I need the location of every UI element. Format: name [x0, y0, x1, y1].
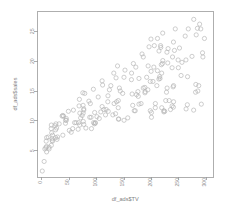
- data-point: [171, 40, 175, 44]
- data-point: [66, 109, 70, 113]
- data-point: [126, 116, 130, 120]
- data-point: [157, 49, 161, 53]
- data-point: [161, 31, 165, 35]
- data-point: [115, 64, 119, 68]
- data-point: [202, 36, 206, 40]
- data-point: [177, 46, 181, 50]
- data-point: [132, 109, 136, 113]
- data-point: [117, 86, 121, 90]
- data-point: [100, 79, 104, 83]
- data-point: [159, 63, 163, 67]
- data-point: [77, 104, 81, 108]
- data-point: [116, 106, 120, 110]
- data-point: [170, 66, 174, 70]
- data-point: [180, 60, 184, 64]
- data-point: [77, 97, 81, 101]
- data-point: [131, 103, 135, 107]
- axes-layer: 050100150200250300510152025: [30, 11, 214, 187]
- scatter-plot: 050100150200250300510152025 df_ads$TVdf_…: [0, 0, 228, 214]
- data-point: [129, 71, 133, 75]
- data-point: [168, 107, 172, 111]
- data-point: [186, 27, 190, 31]
- data-point: [40, 169, 44, 173]
- data-point: [184, 107, 188, 111]
- y-axis-title: df_ads$sales: [12, 77, 18, 110]
- data-point: [176, 66, 180, 70]
- data-point: [152, 65, 156, 69]
- data-point: [165, 86, 169, 90]
- x-tick-label: 150: [119, 178, 125, 187]
- data-point: [171, 100, 175, 104]
- data-point: [114, 76, 118, 80]
- data-point: [149, 115, 153, 119]
- data-point: [99, 110, 103, 114]
- data-point: [152, 44, 156, 48]
- data-point: [192, 17, 196, 21]
- data-point: [106, 94, 110, 98]
- data-point: [146, 64, 150, 68]
- data-point: [131, 61, 135, 65]
- data-point: [130, 92, 134, 96]
- data-point: [153, 106, 157, 110]
- data-point: [101, 83, 105, 87]
- data-point: [155, 36, 159, 40]
- data-point: [129, 78, 133, 82]
- data-points-layer: [40, 17, 206, 173]
- data-point: [76, 127, 80, 131]
- data-point: [50, 131, 54, 135]
- data-point: [61, 133, 65, 137]
- data-point: [148, 79, 152, 83]
- data-point: [122, 118, 126, 122]
- x-tick-label: 50: [64, 179, 70, 185]
- data-point: [198, 22, 202, 26]
- data-point: [173, 27, 177, 31]
- data-point: [153, 101, 157, 105]
- data-point: [106, 100, 110, 104]
- y-tick-label: 25: [30, 28, 36, 34]
- x-tick-label: 250: [174, 178, 180, 187]
- data-point: [122, 75, 126, 79]
- data-point: [147, 45, 151, 49]
- plot-frame: [38, 11, 214, 177]
- data-point: [89, 127, 93, 131]
- data-point: [176, 58, 180, 62]
- data-point: [145, 75, 149, 79]
- x-tick-label: 200: [147, 178, 153, 187]
- data-point: [137, 76, 141, 80]
- data-point: [155, 84, 159, 88]
- data-point: [166, 61, 170, 65]
- data-point: [81, 119, 85, 123]
- r-plot-device: 050100150200250300510152025 df_ads$TVdf_…: [0, 0, 228, 214]
- data-point: [185, 75, 189, 79]
- data-point: [149, 69, 153, 73]
- data-point: [172, 48, 176, 52]
- data-point: [194, 33, 198, 37]
- data-point: [113, 112, 117, 116]
- data-point: [123, 68, 127, 72]
- x-tick-label: 100: [92, 178, 98, 187]
- data-point: [84, 126, 88, 130]
- data-point: [201, 55, 205, 59]
- data-point: [133, 109, 137, 113]
- data-point: [161, 58, 165, 62]
- data-point: [160, 106, 164, 110]
- data-point: [107, 88, 111, 92]
- data-point: [190, 54, 194, 58]
- data-point: [192, 108, 196, 112]
- data-point: [109, 84, 113, 88]
- data-point: [164, 90, 168, 94]
- data-point: [93, 110, 97, 114]
- data-point: [160, 71, 164, 75]
- data-point: [111, 113, 115, 117]
- y-tick-label: 15: [30, 88, 36, 94]
- data-point: [118, 89, 122, 93]
- x-tick-label: 300: [201, 178, 207, 187]
- data-point: [96, 95, 100, 99]
- data-point: [199, 102, 203, 106]
- y-tick-label: 20: [30, 58, 36, 64]
- data-point: [91, 87, 95, 91]
- y-tick-label: 5: [30, 149, 36, 152]
- y-tick-label: 10: [30, 118, 36, 124]
- data-point: [179, 73, 183, 77]
- data-point: [121, 91, 125, 95]
